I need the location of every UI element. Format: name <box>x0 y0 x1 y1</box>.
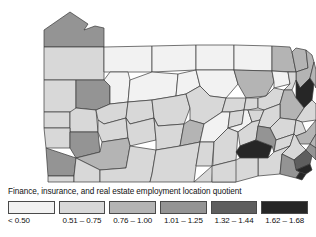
county-erie[interactable] <box>44 12 104 47</box>
choropleth-figure: Finance, insurance, and real estate empl… <box>0 0 316 237</box>
legend-swatch-2 <box>109 201 156 214</box>
county-butler[interactable] <box>70 108 98 132</box>
map-area <box>0 0 316 186</box>
county-warren[interactable] <box>104 46 152 72</box>
county-mckean[interactable] <box>152 45 196 72</box>
county-beaver[interactable] <box>44 128 70 148</box>
county-crawford[interactable] <box>44 47 104 80</box>
legend-swatch-1 <box>59 201 106 214</box>
legend-swatch-4 <box>211 201 258 214</box>
legend-swatch-3 <box>160 201 207 214</box>
legend-title: Finance, insurance, and real estate empl… <box>8 187 241 196</box>
map-legend: Finance, insurance, and real estate empl… <box>0 186 316 237</box>
county-washington[interactable] <box>46 148 76 176</box>
county-potter[interactable] <box>196 45 234 70</box>
legend-label-1: 0.51 – 0.75 <box>59 216 106 228</box>
county-venango[interactable] <box>76 80 110 110</box>
county-mercer[interactable] <box>44 80 76 112</box>
legend-label-4: 1.32 – 1.44 <box>211 216 258 228</box>
county-layer <box>44 12 316 182</box>
county-tioga[interactable] <box>234 45 272 71</box>
legend-swatch-0 <box>8 201 55 214</box>
county-bradford[interactable] <box>272 46 296 72</box>
pennsylvania-county-map <box>0 0 316 186</box>
legend-label-3: 1.01 – 1.25 <box>160 216 207 228</box>
legend-swatch-5 <box>261 201 308 214</box>
legend-swatch-row <box>8 201 308 214</box>
legend-label-0: < 0.50 <box>8 216 55 228</box>
county-lawrence[interactable] <box>44 112 70 128</box>
county-clearfield[interactable] <box>152 94 190 126</box>
legend-label-2: 0.76 – 1.00 <box>109 216 156 228</box>
legend-label-row: < 0.50 0.51 – 0.75 0.76 – 1.00 1.01 – 1.… <box>8 216 308 228</box>
county-montour[interactable] <box>244 98 258 110</box>
county-greene[interactable] <box>48 176 74 182</box>
county-sullivan[interactable] <box>272 71 290 88</box>
legend-label-5: 1.62 – 1.68 <box>261 216 308 228</box>
